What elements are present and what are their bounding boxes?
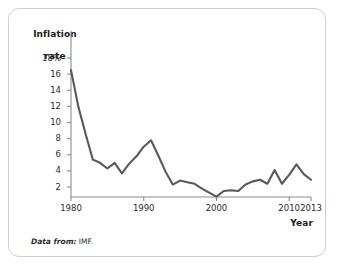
series-line: [71, 70, 311, 197]
inflation-rate-line-chart: Inflation rate 18%161412108642 198019902…: [9, 9, 327, 258]
figure-card: Inflation rate 18%161412108642 198019902…: [8, 8, 326, 257]
x-axis-title: Year: [257, 218, 313, 229]
source-note: Data from: IMF.: [31, 237, 93, 246]
axis-tick-marks: [67, 58, 311, 201]
data-series-lines: [71, 70, 311, 197]
source-note-lead: Data from:: [31, 237, 76, 246]
source-note-value: IMF.: [76, 237, 93, 246]
